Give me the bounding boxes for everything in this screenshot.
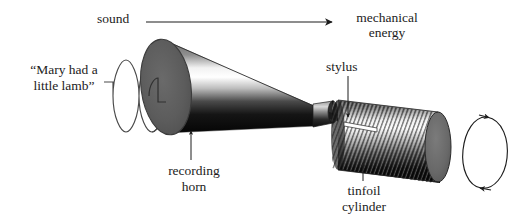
label-spoken-phrase: “Mary had alittle lamb” bbox=[14, 62, 114, 94]
label-sound: sound bbox=[97, 12, 129, 27]
label-mechanical-energy: mechanicalenergy bbox=[339, 11, 435, 40]
label-recording-horn: recordinghorn bbox=[139, 163, 249, 195]
label-mechanical-energy-line2: energy bbox=[369, 25, 406, 40]
label-stylus: stylus bbox=[326, 60, 358, 75]
label-spoken-phrase-line2: little lamb” bbox=[33, 78, 94, 93]
label-spoken-phrase-line1: “Mary had a bbox=[30, 62, 97, 77]
label-recording-horn-line2: horn bbox=[182, 179, 207, 194]
label-tinfoil-cylinder-line2: cylinder bbox=[342, 199, 386, 214]
phonograph-diagram bbox=[0, 0, 519, 223]
label-recording-horn-line1: recording bbox=[168, 163, 220, 178]
label-tinfoil-cylinder-line1: tinfoil bbox=[348, 183, 381, 198]
label-mechanical-energy-line1: mechanical bbox=[356, 10, 417, 25]
label-tinfoil-cylinder: tinfoilcylinder bbox=[311, 183, 417, 215]
